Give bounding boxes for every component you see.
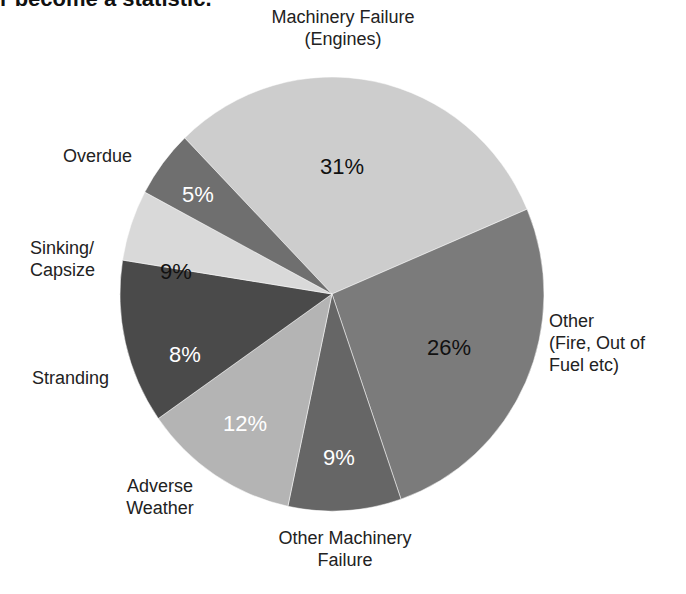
pct-other-fire-out-of-fuel-etc: 26%	[427, 337, 471, 359]
label-other-fire-out-of-fuel-etc: Other (Fire, Out of Fuel etc)	[549, 310, 679, 376]
pct-stranding: 8%	[169, 344, 201, 366]
label-overdue: Overdue	[63, 145, 163, 167]
pct-machinery-failure-engines: 31%	[320, 156, 364, 178]
pct-overdue: 5%	[182, 184, 214, 206]
pct-adverse-weather: 12%	[223, 413, 267, 435]
pie-chart	[0, 0, 686, 594]
label-sinking-capsize: Sinking/ Capsize	[30, 237, 140, 281]
pct-sinking-capsize: 9%	[160, 261, 192, 283]
label-stranding: Stranding	[32, 367, 142, 389]
label-adverse-weather: Adverse Weather	[110, 475, 210, 519]
label-machinery-failure-engines: Machinery Failure (Engines)	[248, 6, 438, 50]
pct-other-machinery-failure: 9%	[323, 447, 355, 469]
label-other-machinery-failure: Other Machinery Failure	[250, 527, 440, 571]
